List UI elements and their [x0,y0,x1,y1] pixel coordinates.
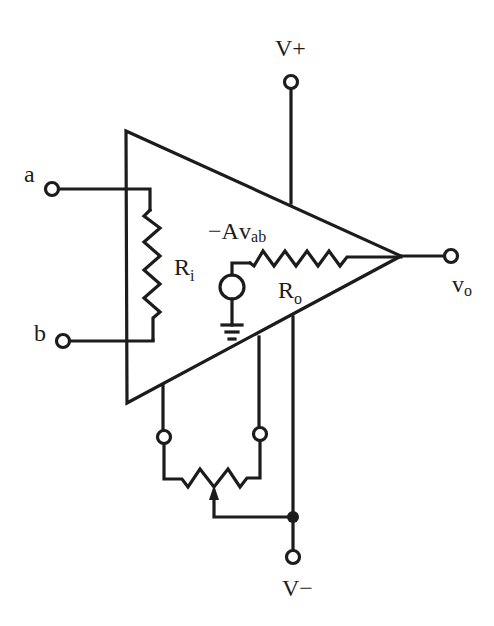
null-terminal-left [158,431,171,444]
input-a-label: a [24,161,35,187]
dependent-voltage-source [220,275,244,299]
v-minus-terminal [287,551,300,564]
null-terminal-right [254,428,267,441]
input-a-terminal [46,183,59,196]
v-plus-terminal [285,76,298,89]
wiper-wire [214,498,293,517]
op-amp-diagram: V+ a Ri b −Avab Ro vo V− [0,0,494,626]
op-amp-triangle [126,131,401,403]
v-plus-label: V+ [275,35,306,61]
v-minus-label: V− [282,575,313,601]
input-a-wire [59,189,150,210]
output-terminal [445,250,458,263]
ground-icon [222,325,242,339]
source-label: −Avab [208,218,266,245]
output-resistance-ro [250,251,401,266]
input-b-label: b [34,320,46,346]
input-b-terminal [57,335,70,348]
input-resistance-ri [144,210,160,340]
offset-null-potentiometer [164,441,260,487]
ro-label: Ro [278,277,302,307]
ri-label: Ri [174,254,195,284]
input-b-wire [70,340,153,341]
junction-dot [287,511,299,523]
source-top-wire [232,263,250,275]
output-label: vo [452,271,472,299]
